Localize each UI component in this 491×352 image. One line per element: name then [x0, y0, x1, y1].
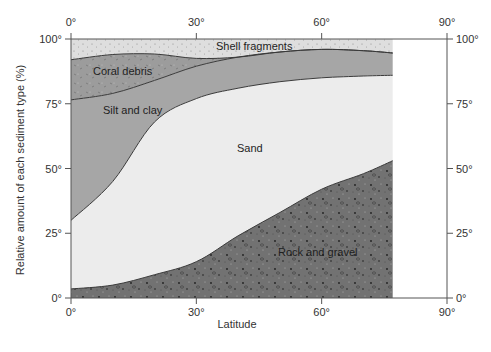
y-tick-label-left: 50° — [45, 163, 62, 175]
y-tick-label-left: 25° — [45, 227, 62, 239]
y-tick-label-right: 100° — [456, 33, 479, 45]
x-tick-label-bottom: 30° — [188, 306, 205, 318]
x-tick-label-top: 60° — [313, 16, 330, 28]
y-tick-label-right: 0° — [456, 292, 467, 304]
label-shell-fragments: Shell fragments — [216, 40, 293, 52]
y-tick-label-right: 25° — [456, 227, 473, 239]
label-rock-and-gravel: Rock and gravel — [278, 246, 358, 258]
y-tick-label-left: 0° — [51, 292, 62, 304]
x-axis-title: Latitude — [217, 318, 256, 330]
chart-plot-area — [71, 39, 393, 298]
x-tick-label-bottom: 0° — [66, 306, 77, 318]
label-sand: Sand — [237, 142, 263, 154]
x-tick-label-bottom: 60° — [313, 306, 330, 318]
y-tick-label-right: 50° — [456, 163, 473, 175]
y-tick-label-left: 75° — [45, 98, 62, 110]
y-axis-title: Relative amount of each sediment type (%… — [14, 65, 26, 275]
x-tick-label-top: 90° — [439, 16, 456, 28]
x-tick-label-top: 0° — [66, 16, 77, 28]
label-silt-and-clay: Silt and clay — [103, 104, 163, 116]
x-tick-label-bottom: 90° — [439, 306, 456, 318]
x-tick-label-top: 30° — [188, 16, 205, 28]
y-tick-label-left: 100° — [39, 33, 62, 45]
y-tick-label-right: 75° — [456, 98, 473, 110]
sediment-chart: 0°30°60°90°0°30°60°90°0°25°50°75°100°0°2… — [0, 0, 491, 352]
label-coral-debris: Coral debris — [93, 65, 153, 77]
